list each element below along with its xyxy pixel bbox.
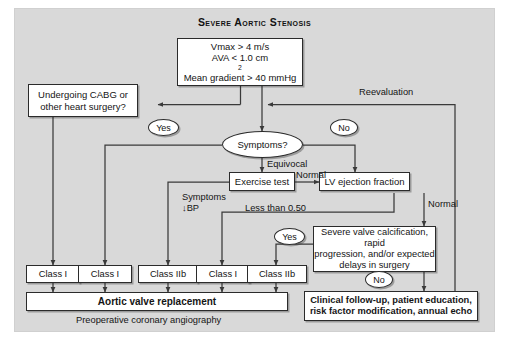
class-box-label: Class IIb bbox=[248, 269, 306, 280]
severe-calcification-line-3: delays in surgery bbox=[314, 260, 435, 271]
exercise-test-label: Exercise test bbox=[230, 176, 294, 187]
reevaluation-label: Reevaluation bbox=[359, 87, 413, 98]
clinical-followup-line-1: Clinical follow-up, patient education, bbox=[305, 295, 477, 306]
severe-calcification-line-1: Severe valve calcification, rapid bbox=[314, 227, 435, 249]
class-box: Class I bbox=[196, 265, 250, 283]
lv-ejection-fraction-box: LV ejection fraction bbox=[319, 172, 410, 191]
criteria-line-2: AVA < 1.0 cm2 bbox=[178, 52, 302, 71]
symptoms-bp-line-1: Symptoms bbox=[182, 192, 226, 202]
normal-exercise-label: Normal bbox=[296, 170, 326, 181]
criteria-box: Vmax > 4 m/s AVA < 1.0 cm2 Mean gradient… bbox=[177, 38, 303, 86]
exercise-test-box: Exercise test bbox=[229, 172, 295, 191]
yes-bubble-calcification: Yes bbox=[274, 228, 305, 245]
severe-calcification-line-2: progression, and/or expected bbox=[314, 249, 435, 260]
footnote-label: Preoperative coronary angiography bbox=[76, 315, 221, 326]
class-box-label: Class I bbox=[197, 269, 249, 280]
less-than-050-label: Less than 0.50 bbox=[245, 203, 306, 214]
severe-calcification-box: Severe valve calcification, rapid progre… bbox=[313, 226, 436, 272]
class-box: Class I bbox=[26, 265, 80, 283]
symptoms-bp-line-2: ↓BP bbox=[182, 203, 199, 213]
class-box: Class IIb bbox=[138, 265, 198, 283]
no-bubble-symptoms: No bbox=[330, 119, 358, 136]
yes-bubble-cabg: Yes bbox=[148, 119, 179, 136]
cabg-question-box: Undergoing CABG or other heart surgery? bbox=[28, 84, 138, 117]
cabg-line-1: Undergoing CABG or bbox=[29, 89, 137, 100]
yes-bubble-calcification-label: Yes bbox=[282, 232, 297, 242]
criteria-line-1: Vmax > 4 m/s bbox=[178, 41, 302, 52]
figure-canvas: Severe Aortic Stenosis Vmax > 4 m/s AVA … bbox=[0, 0, 509, 355]
class-box-label: Class I bbox=[79, 269, 131, 280]
class-box: Class I bbox=[78, 265, 132, 283]
normal-lvef-label: Normal bbox=[428, 199, 458, 210]
class-box: Class IIb bbox=[247, 265, 307, 283]
criteria-line-3: Mean gradient > 40 mmHg bbox=[178, 72, 302, 83]
no-bubble-calcification: No bbox=[365, 271, 393, 288]
no-bubble-symptoms-label: No bbox=[338, 123, 350, 133]
yes-bubble-cabg-label: Yes bbox=[156, 123, 171, 133]
aortic-valve-replacement-box: Aortic valve replacement bbox=[26, 292, 288, 311]
avr-label: Aortic valve replacement bbox=[27, 296, 287, 308]
lv-ejection-label: LV ejection fraction bbox=[320, 176, 409, 187]
cabg-line-2: other heart surgery? bbox=[29, 101, 137, 112]
figure-title: Severe Aortic Stenosis bbox=[0, 16, 509, 28]
symptoms-bp-label: Symptoms ↓BP bbox=[182, 192, 226, 214]
symptoms-decision-oval: Symptoms? bbox=[222, 131, 303, 158]
class-box-label: Class I bbox=[27, 269, 79, 280]
equivocal-label: Equivocal bbox=[267, 159, 307, 170]
symptoms-label: Symptoms? bbox=[237, 139, 287, 150]
clinical-followup-box: Clinical follow-up, patient education, r… bbox=[304, 291, 478, 321]
no-bubble-calcification-label: No bbox=[373, 275, 385, 285]
clinical-followup-line-2: risk factor modification, annual echo bbox=[305, 306, 477, 317]
class-box-label: Class IIb bbox=[139, 269, 197, 280]
